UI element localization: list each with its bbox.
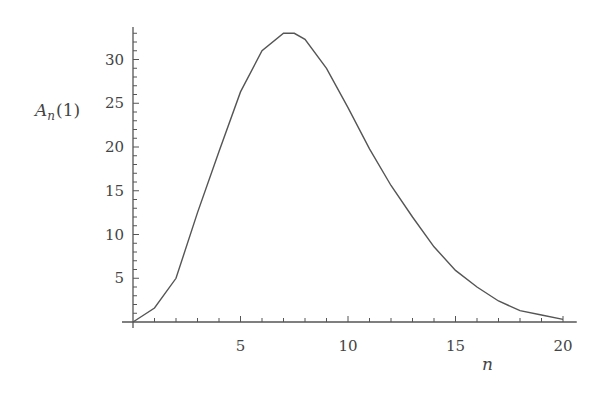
x-tick-label: 10 <box>338 337 357 355</box>
y-tick-label: 5 <box>114 269 124 287</box>
y-tick-label: 25 <box>105 94 124 112</box>
x-tick-label: 15 <box>446 337 465 355</box>
x-axis <box>122 316 577 322</box>
y-tick-label: 10 <box>105 226 124 244</box>
y-tick-labels: 51015202530 <box>105 51 124 288</box>
y-tick-label: 20 <box>105 138 124 156</box>
x-tick-label: 20 <box>553 337 572 355</box>
x-axis-label: n <box>482 354 493 374</box>
y-tick-label: 30 <box>105 51 124 69</box>
y-axis <box>133 27 139 328</box>
x-tick-label: 5 <box>236 337 246 355</box>
data-series-line <box>133 33 563 322</box>
y-axis-label: An(1) <box>33 100 80 123</box>
chart-svg: 5101520 51015202530 An(1) n <box>0 0 613 394</box>
x-tick-labels: 5101520 <box>236 337 573 355</box>
y-tick-label: 15 <box>105 182 124 200</box>
